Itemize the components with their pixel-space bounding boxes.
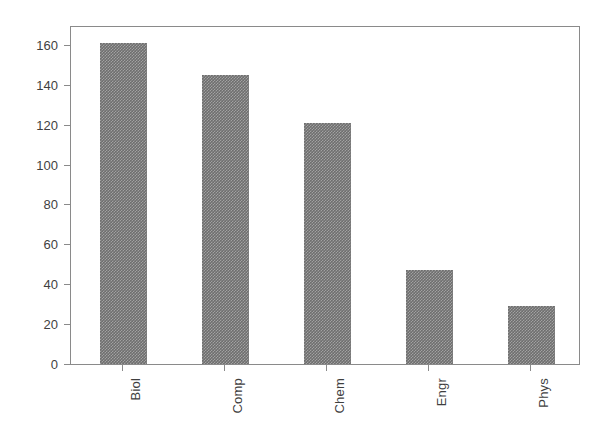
x-tick-label-chem: Chem bbox=[332, 378, 347, 413]
bar-chart-figure: 020406080100120140160 BiolCompChemEngrPh… bbox=[0, 0, 610, 446]
x-tick-label-phys: Phys bbox=[536, 378, 551, 408]
x-tick-mark bbox=[122, 365, 123, 371]
x-tick-mark bbox=[428, 365, 429, 371]
x-tick-label-biol: Biol bbox=[128, 378, 143, 400]
x-tick-mark bbox=[326, 365, 327, 371]
x-tick-label-comp: Comp bbox=[230, 378, 245, 413]
x-axis-ticks: BiolCompChemEngrPhys bbox=[0, 0, 610, 446]
x-tick-mark bbox=[224, 365, 225, 371]
x-tick-mark bbox=[530, 365, 531, 371]
x-tick-label-engr: Engr bbox=[434, 378, 449, 406]
